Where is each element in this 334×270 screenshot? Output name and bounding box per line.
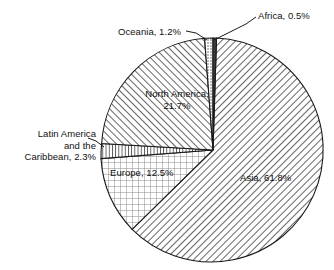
slice-label-africa-text: Africa, 0.5% (258, 10, 310, 22)
pie-chart-figure: Africa, 0.5% Oceania, 1.2% North America… (0, 0, 334, 270)
slice-label-latin-america-line2: and the (6, 140, 96, 152)
slice-label-europe-text: Europe, 12.5% (110, 167, 174, 179)
leader-line-africa (214, 17, 256, 40)
slice-label-oceania: Oceania, 1.2% (118, 26, 181, 38)
slice-label-latin-america: Latin America and the Caribbean, 2.3% (6, 128, 96, 163)
slice-label-latin-america-line3: Caribbean, 2.3% (6, 151, 96, 163)
slice-label-north-america-line1: North America, (133, 88, 221, 100)
slice-label-latin-america-line1: Latin America (6, 128, 96, 140)
slice-label-asia: Asia, 61.8% (240, 172, 291, 184)
slice-label-asia-text: Asia, 61.8% (240, 172, 291, 184)
slice-label-north-america: North America, 21.7% (133, 88, 221, 111)
slice-label-oceania-text: Oceania, 1.2% (118, 26, 181, 38)
slice-label-africa: Africa, 0.5% (258, 10, 310, 22)
slice-label-europe: Europe, 12.5% (110, 167, 174, 179)
slice-label-north-america-line2: 21.7% (133, 100, 221, 112)
